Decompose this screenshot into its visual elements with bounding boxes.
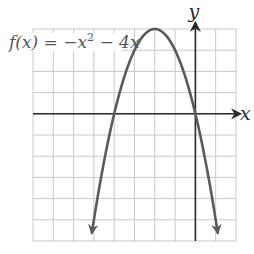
y-axis-label: y (187, 0, 199, 22)
parabola-chart: f(x) = −x2 − 4x x y (0, 0, 254, 254)
axes (33, 23, 240, 241)
parabola-curve-left (92, 29, 155, 233)
function-label-prefix: f(x) = −x (7, 32, 87, 52)
function-label-suffix: − 4x (94, 32, 140, 52)
parabola-curve-right (155, 29, 218, 233)
x-axis-label: x (240, 102, 251, 124)
function-label-exponent: 2 (87, 31, 94, 44)
function-label: f(x) = −x2 − 4x (7, 31, 140, 52)
grid (33, 29, 236, 241)
